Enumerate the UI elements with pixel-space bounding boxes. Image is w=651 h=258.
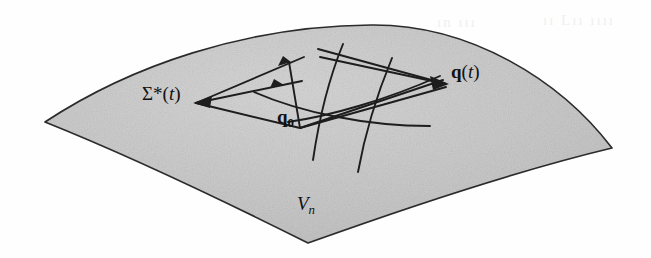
q0-glyph: q — [277, 106, 288, 127]
vn-glyph: V — [297, 193, 309, 214]
ghost-text-left: ın ııı — [437, 14, 477, 31]
label-q-zero: q0 — [277, 107, 294, 130]
sigma-paren-close: ) — [174, 83, 180, 104]
sigma-glyph: Σ — [142, 83, 153, 104]
manifold-surface — [45, 25, 612, 243]
manifold-figure: ın ııı ıı Lıı ıııı Σ*(t) q(t) q0 Vn — [0, 0, 651, 258]
ghost-text-right: ıı Lıı ıııı — [543, 12, 615, 29]
figure-canvas — [0, 0, 651, 258]
qt-glyph: q — [451, 61, 462, 82]
vn-subscript: n — [309, 202, 315, 217]
label-sigma-star: Σ*(t) — [142, 84, 181, 103]
q0-subscript: 0 — [288, 115, 294, 130]
sigma-superscript: * — [153, 83, 163, 104]
label-q-of-t: q(t) — [451, 62, 480, 81]
qt-paren-close: ) — [473, 61, 479, 82]
label-v-n: Vn — [297, 194, 315, 217]
